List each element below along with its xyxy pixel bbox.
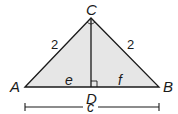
segment-label-ad: e xyxy=(65,72,73,88)
vertex-label-c: C xyxy=(86,1,97,18)
vertex-label-a: A xyxy=(9,78,20,95)
side-label-ac: 2 xyxy=(51,37,58,52)
vertex-label-b: B xyxy=(163,78,173,95)
triangle-abc xyxy=(25,18,159,87)
segment-label-ab: c xyxy=(87,99,94,114)
triangle-diagram: C A B D 2 2 e f c xyxy=(0,0,178,114)
side-label-bc: 2 xyxy=(127,37,134,52)
